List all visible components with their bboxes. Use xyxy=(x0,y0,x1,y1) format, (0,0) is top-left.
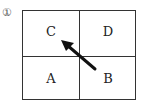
arrow-icon xyxy=(0,0,145,105)
